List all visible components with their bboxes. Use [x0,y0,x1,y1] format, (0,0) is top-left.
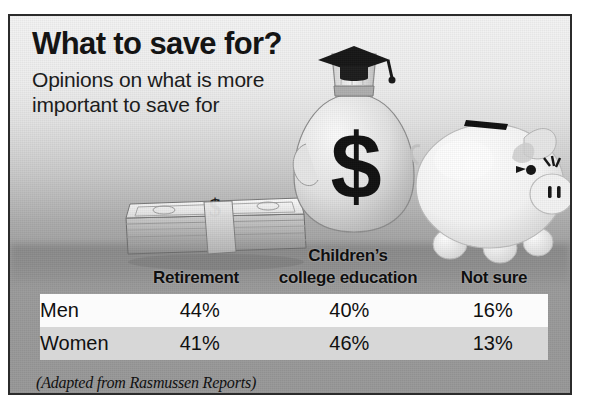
cell-men-college: 40% [261,294,437,327]
page-title: What to save for? [32,28,352,61]
infographic-panel: $ [8,14,572,395]
cell-women-not-sure: 13% [437,327,548,360]
cell-men-retirement: 44% [138,294,261,327]
column-header-college-line1: Children’s [262,246,434,266]
headline-block: What to save for? Opinions on what is mo… [32,28,352,118]
column-header-college-line2: college education [262,268,434,288]
cell-women-retirement: 41% [138,327,261,360]
results-table: Men 44% 40% 16% Women 41% 46% 13% [40,294,548,360]
subtitle-line-2: important to save for [32,93,219,116]
table-row: Men 44% 40% 16% [40,294,548,327]
cell-women-college: 46% [261,327,437,360]
table-row: Women 41% 46% 13% [40,327,548,360]
row-label-women: Women [40,327,138,360]
source-attribution: (Adapted from Rasmussen Reports) [36,374,256,392]
column-header-retirement: Retirement [136,268,256,288]
subtitle-line-1: Opinions on what is more [32,68,264,91]
column-header-not-sure: Not sure [440,268,548,288]
cell-men-not-sure: 16% [437,294,548,327]
page-subtitle: Opinions on what is more important to sa… [32,67,352,118]
table-column-headers: Retirement Children’s college education … [40,242,548,294]
row-label-men: Men [40,294,138,327]
